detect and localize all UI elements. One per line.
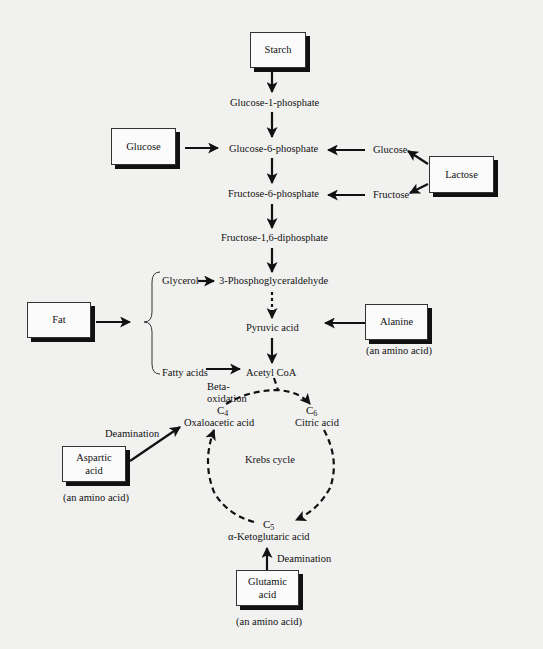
deamination-glutamic: Deamination xyxy=(277,554,331,565)
arc-right xyxy=(296,430,334,520)
node-g6p: Glucose-6-phosphate xyxy=(229,144,318,155)
alanine-note: (an amino acid) xyxy=(366,346,432,357)
node-oxaloacetic: Oxaloacetic acid xyxy=(184,418,254,429)
node-pyruvic: Pyruvic acid xyxy=(246,323,299,334)
starch-box: Starch xyxy=(250,32,306,68)
glutamic-note: (an amino acid) xyxy=(236,617,302,628)
aspartic-label-1: Aspartic xyxy=(76,452,112,463)
node-f6p: Fructose-6-phosphate xyxy=(228,189,319,200)
arc-left xyxy=(208,430,254,522)
aspartic-label-2: acid xyxy=(85,465,103,476)
alanine-box: Alanine xyxy=(365,304,428,340)
node-glucose-right: Glucose xyxy=(373,145,407,156)
node-g1p: Glucose-1-phosphate xyxy=(230,98,319,109)
node-pgal: 3-Phosphoglyceraldehyde xyxy=(219,276,328,287)
node-citric: Citric acid xyxy=(295,418,339,429)
glutamic-label-2: acid xyxy=(259,589,277,600)
brace xyxy=(144,272,160,374)
aspartic-box: Asparticacid xyxy=(62,446,126,482)
fat-label: Fat xyxy=(52,313,65,326)
arrow-acetyl-cycle xyxy=(274,378,278,390)
node-fatty-acids: Fatty acids xyxy=(162,368,208,379)
node-acetyl: Acetyl CoA xyxy=(246,368,296,379)
lactose-box: Lactose xyxy=(429,156,494,193)
arrow-lactose-glucose xyxy=(408,151,428,164)
fat-box: Fat xyxy=(27,302,91,338)
lactose-label: Lactose xyxy=(445,168,478,181)
glucose-box: Glucose xyxy=(111,128,176,165)
arrow-lactose-fructose xyxy=(410,184,428,193)
krebs-cycle-label: Krebs cycle xyxy=(245,455,295,466)
node-fructose-right: Fructose xyxy=(373,190,409,201)
node-glycerol: Glycerol xyxy=(162,276,199,287)
glutamic-label-1: Glutamic xyxy=(248,576,287,587)
deamination-aspartic: Deamination xyxy=(105,429,159,440)
beta-label: Beta- xyxy=(207,382,230,393)
glutamic-box: Glutamicacid xyxy=(236,570,299,606)
aspartic-note: (an amino acid) xyxy=(63,493,129,504)
glucose-label: Glucose xyxy=(126,140,160,153)
node-f16dp: Fructose-1,6-diphosphate xyxy=(221,233,328,244)
starch-label: Starch xyxy=(265,43,292,56)
alanine-label: Alanine xyxy=(380,315,413,328)
node-ketoglutaric: α-Ketoglutaric acid xyxy=(228,532,310,543)
oxidation-label: oxidation xyxy=(207,394,247,405)
